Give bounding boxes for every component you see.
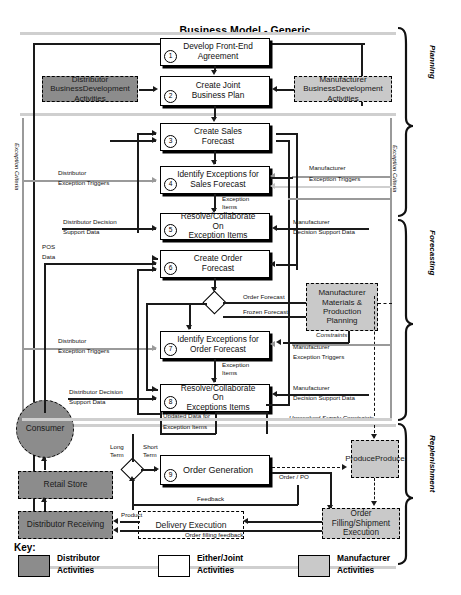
- line-right-rail-tap-1: [288, 198, 392, 200]
- arrow-order-po: [342, 464, 347, 470]
- line-to-term-diamond: [132, 434, 134, 462]
- step-number-1: 1: [164, 50, 177, 63]
- delivery-execution-label: Delivery Execution: [155, 520, 226, 530]
- label-product: Product: [121, 512, 142, 519]
- phase-divider-top: [20, 32, 396, 35]
- mmpp-line2: Materials &: [322, 298, 362, 307]
- line-1-2: [214, 66, 216, 72]
- line-pos-data-v: [44, 263, 46, 413]
- line-3-out-v: [296, 133, 298, 270]
- arrow-3-to-4: [211, 160, 217, 165]
- label-constraints: Constraints: [316, 332, 347, 339]
- step-number-9: 9: [164, 469, 177, 482]
- arrow-order-filling-feedback: [113, 527, 118, 533]
- process-box-1[interactable]: Develop Front-EndAgreement 1: [160, 38, 270, 66]
- arrow-mbd-to-2: [272, 86, 277, 92]
- process-8-line1: Resolve/Collaborate On: [177, 384, 259, 403]
- diagram-canvas: Business Model - Generic Planning Foreca…: [0, 0, 461, 595]
- process-7-line2: Order Forecast: [177, 345, 259, 355]
- arrow-constraints-to-7: [276, 339, 281, 345]
- line-6-in-b: [137, 269, 156, 271]
- line-unresolved-supply-v: [374, 296, 375, 416]
- line-8-in-h-top: [146, 303, 190, 305]
- arrow-3-back-6: [270, 261, 275, 267]
- line-mfg-ds-5-stub: [276, 228, 294, 230]
- arrow-dist-decision-support-8: [152, 395, 157, 401]
- line-feedback-v: [297, 485, 299, 505]
- arrow-filling-to-delivery: [243, 518, 248, 524]
- label-order-filling-feedback: Order filling feedback: [185, 532, 243, 539]
- arrow-dbd-to-2: [153, 86, 158, 92]
- line-3-out-right: [276, 133, 298, 135]
- line-mbd-to-2: [276, 89, 294, 91]
- arrow-dist-decision-support-5: [152, 225, 157, 231]
- label-mfg-et-order-2: Exception Triggers: [293, 354, 344, 361]
- arrow-loop-3-in: [152, 130, 157, 136]
- key-label-joint-2: Activities: [197, 566, 234, 576]
- step-number-8: 8: [164, 396, 177, 409]
- box-order-filling-shipment-execution[interactable]: Order Filling/Shipment Execution: [322, 508, 400, 539]
- label-short-term-1: Short: [143, 444, 158, 451]
- key-label-distributor-2: Activities: [57, 566, 94, 576]
- process-box-4[interactable]: Identify Exceptions forSales Forecast 4: [160, 166, 270, 194]
- phase-label-replenishment: Replenishment: [427, 435, 436, 492]
- label-short-term-2: Term: [143, 452, 157, 459]
- process-box-8[interactable]: Resolve/Collaborate OnExceptions Items 8: [160, 384, 270, 412]
- label-mfg-ds-8b: Decision Support Data: [293, 395, 355, 402]
- box-manufacturer-business-development[interactable]: Manufacturer BusinessDevelopment Activit…: [294, 76, 392, 102]
- line-8-loop-back: [137, 413, 161, 415]
- process-box-7[interactable]: Identify Exceptions forOrder Forecast 7: [160, 331, 270, 359]
- line-filling-to-delivery: [248, 521, 322, 523]
- line-updated-data-v: [160, 412, 162, 434]
- label-mfg-ds-8a: Manufacturer: [293, 385, 329, 392]
- consumer-label: Consumer: [26, 424, 65, 434]
- distributor-receiving-label: Distributor Receiving: [27, 520, 104, 530]
- arrow-2-to-3: [211, 117, 217, 122]
- label-dist-ds-5b: Support Data: [63, 229, 99, 236]
- label-exception-items-1a: Exception: [222, 196, 249, 203]
- process-box-9[interactable]: Order Generation 9: [160, 455, 270, 485]
- left-exception-criteria-label: Exception Criteria: [13, 143, 20, 190]
- box-manufacturer-materials-production-planning[interactable]: Manufacturer Materials & Production Plan…: [306, 283, 378, 331]
- box-distributor-business-development[interactable]: Distributor BusinessDevelopment Activiti…: [42, 76, 138, 102]
- label-exception-items-2b: Items: [222, 370, 237, 377]
- process-box-6[interactable]: Create OrderForecast 6: [160, 250, 270, 278]
- label-dist-et-sales-1: Distributor: [58, 170, 86, 177]
- line-right-return-8: [266, 404, 290, 406]
- line-updated-data-r: [215, 412, 217, 434]
- line-mfg-et-sales-light: [275, 186, 392, 188]
- line-8-in-v: [146, 303, 148, 390]
- line-8-in: [146, 389, 158, 391]
- line-pos-data: [44, 263, 156, 265]
- label-long-term-1: Long: [110, 444, 124, 451]
- box-distributor-receiving[interactable]: Distributor Receiving: [18, 511, 113, 539]
- line-updated-data-right: [266, 412, 268, 434]
- label-pos-data-1: POS: [42, 244, 55, 251]
- line-mfg-et-sales-black: [271, 177, 293, 179]
- process-box-5[interactable]: Resolve/Collaborate OnException Items 5: [160, 213, 270, 240]
- label-dist-et-order-1: Distributor: [58, 338, 86, 345]
- process-box-3[interactable]: Create SalesForecast 3: [160, 123, 270, 151]
- line-order-to-filling-h: [272, 472, 332, 474]
- process-box-2[interactable]: Create JointBusiness Plan 2: [160, 76, 270, 106]
- arrow-dr-to-retail: [41, 497, 47, 502]
- line-loop-3b-in: [110, 140, 156, 142]
- process-8-line2: Exceptions Items: [177, 403, 259, 413]
- process-2-line2: Business Plan: [192, 91, 245, 101]
- step-number-3: 3: [164, 135, 177, 148]
- arrow-supply-to-produce: [371, 434, 377, 439]
- step-number-6: 6: [164, 262, 177, 275]
- page-title: Business Model - Generic: [160, 25, 330, 37]
- label-dist-et-order-2: Exception Triggers: [58, 348, 109, 355]
- produce-line2: Produce: [375, 454, 405, 463]
- consumer-band-rail: [22, 418, 392, 421]
- mbd-line2: Development Activities: [327, 84, 383, 102]
- key-label-distributor-1: Distributor: [57, 554, 100, 564]
- process-4-line2: Sales Forecast: [177, 180, 259, 190]
- box-retail-store[interactable]: Retail Store: [18, 471, 113, 499]
- key-label-manufacturer-1: Manufacturer: [337, 554, 390, 564]
- label-pos-data-2: Data: [42, 254, 55, 261]
- box-produce-produce[interactable]: ProduceProduce: [351, 440, 399, 478]
- line-diamond-left: [189, 303, 207, 305]
- mmpp-line1: Manufacturer: [318, 288, 365, 297]
